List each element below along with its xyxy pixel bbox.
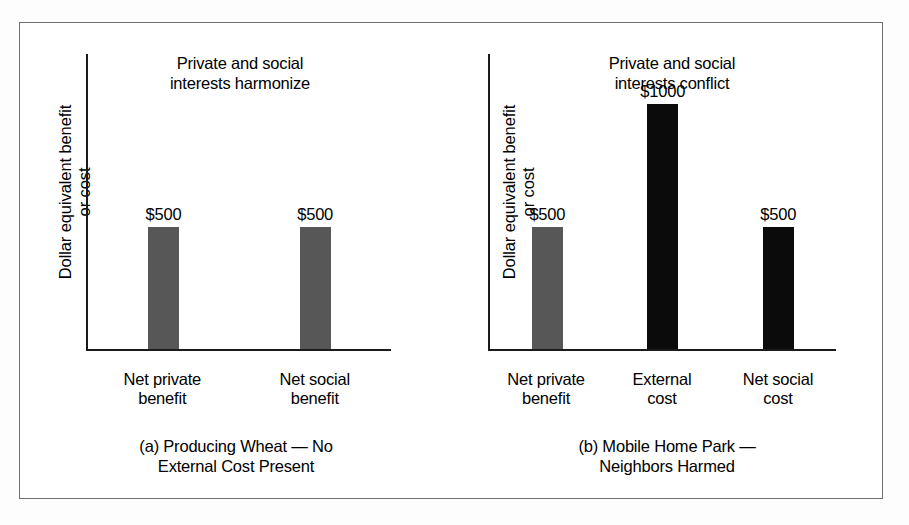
bar-value-label: $500 (145, 205, 181, 223)
bar: $500 (300, 227, 331, 350)
bar-value-label: $500 (297, 205, 333, 223)
bar-slot: $500 (721, 54, 836, 349)
bar-slot: $500 (490, 54, 605, 349)
bar-slot: $500 (239, 54, 391, 349)
bar-slot: $500 (88, 54, 240, 349)
panel-caption: (a) Producing Wheat — No External Cost P… (66, 436, 406, 476)
category-label: Net private benefit (86, 370, 239, 408)
category-labels-a: Net private benefit Net social benefit (86, 370, 391, 408)
bar-value-label: $1000 (640, 82, 685, 100)
bar: $500 (763, 227, 794, 350)
bar: $500 (532, 227, 563, 350)
bar-value-label: $500 (760, 205, 796, 223)
category-label: Net private benefit (488, 370, 604, 408)
category-labels-b: Net private benefit External cost Net so… (488, 370, 836, 408)
plot-area-a: $500 $500 (86, 54, 391, 351)
chart-panel-b: Dollar equivalent benefit or cost Privat… (452, 23, 884, 498)
bar-group-b: $500 $1000 $500 (490, 54, 836, 349)
x-axis-line (488, 349, 836, 351)
chart-panel-a: Dollar equivalent benefit or cost Privat… (20, 23, 452, 498)
category-label: Net social cost (720, 370, 836, 408)
figure-root: Dollar equivalent benefit or cost Privat… (0, 0, 909, 525)
figure-frame: Dollar equivalent benefit or cost Privat… (19, 22, 883, 499)
plot-area-b: $500 $1000 $500 (488, 54, 836, 351)
category-label: External cost (604, 370, 720, 408)
bar: $1000 (647, 104, 678, 350)
bar-value-label: $500 (529, 205, 565, 223)
category-label: Net social benefit (239, 370, 392, 408)
x-axis-line (86, 349, 391, 351)
bar: $500 (148, 227, 179, 350)
bar-group-a: $500 $500 (88, 54, 391, 349)
panel-caption: (b) Mobile Home Park — Neighbors Harmed (492, 436, 842, 476)
bar-slot: $1000 (605, 54, 720, 349)
